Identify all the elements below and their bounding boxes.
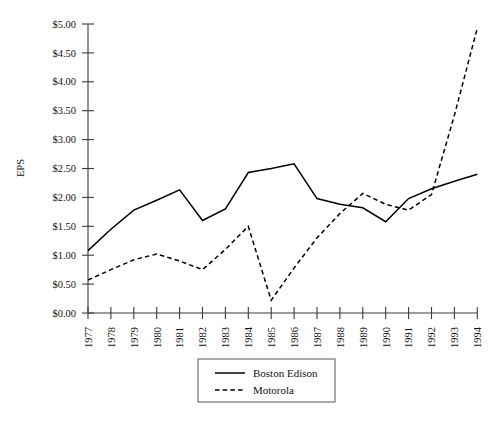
x-tick-label: 1981 [174,327,185,348]
x-axis: 1977197819791980198119821983198419851986… [83,307,483,348]
y-tick-label: $2.50 [52,163,76,174]
y-tick-label: $0.50 [52,279,76,290]
x-tick-label: 1980 [152,327,163,348]
y-axis: $0.00$0.50$1.00$1.50$2.00$2.50$3.00$3.50… [52,19,94,319]
y-axis-title-text: EPS [15,159,26,177]
x-tick-label: 1983 [220,327,231,348]
y-tick-label: $1.00 [52,250,76,261]
eps-line-chart: $0.00$0.50$1.00$1.50$2.00$2.50$3.00$3.50… [0,0,494,425]
x-tick-label: 1994 [472,326,483,348]
legend-label-motorola: Motorola [253,384,294,396]
x-tick-label: 1988 [335,327,346,348]
x-tick-label: 1982 [197,327,208,348]
y-tick-label: $3.50 [52,105,76,116]
y-tick-label: $2.00 [52,192,76,203]
y-tick-label: $5.00 [52,19,76,30]
y-axis-title: EPS [15,159,26,177]
x-tick-label: 1985 [266,327,277,348]
x-tick-label: 1986 [289,327,300,348]
y-tick-label: $4.50 [52,48,76,59]
y-tick-label: $4.00 [52,76,76,87]
x-tick-label: 1991 [403,327,414,348]
x-tick-label: 1992 [426,327,437,348]
series-line-boston-edison [88,164,477,251]
chart-legend: Boston EdisonMotorola [198,359,335,402]
x-tick-label: 1989 [358,327,369,348]
x-tick-label: 1977 [83,327,94,348]
y-tick-label: $0.00 [52,308,76,319]
x-tick-label: 1978 [106,327,117,348]
x-tick-label: 1993 [449,327,460,348]
x-tick-label: 1984 [243,326,254,348]
y-tick-label: $3.00 [52,134,76,145]
series-line-motorola [88,28,477,300]
x-tick-label: 1987 [312,327,323,348]
y-tick-label: $1.50 [52,221,76,232]
legend-label-boston-edison: Boston Edison [253,367,318,379]
data-series-group [88,28,477,300]
chart-container: $0.00$0.50$1.00$1.50$2.00$2.50$3.00$3.50… [0,0,494,425]
x-tick-label: 1990 [381,327,392,348]
x-tick-label: 1979 [129,327,140,348]
